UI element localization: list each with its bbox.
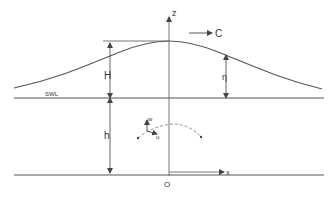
swl-label: SWL: [45, 91, 59, 97]
celerity-label: C: [215, 28, 222, 39]
wave-profile: [14, 41, 322, 89]
w-label: w: [147, 116, 153, 122]
eta-label: η: [222, 72, 227, 82]
u-label: u: [156, 134, 159, 140]
origin-label: O: [164, 180, 170, 189]
depth-label: h: [104, 130, 110, 141]
solitary-wave-diagram: z C H η SWL h w u x O: [0, 0, 336, 197]
x-axis-label: x: [226, 169, 230, 176]
wave-height-label: H: [104, 70, 111, 81]
z-axis-label: z: [172, 8, 177, 18]
